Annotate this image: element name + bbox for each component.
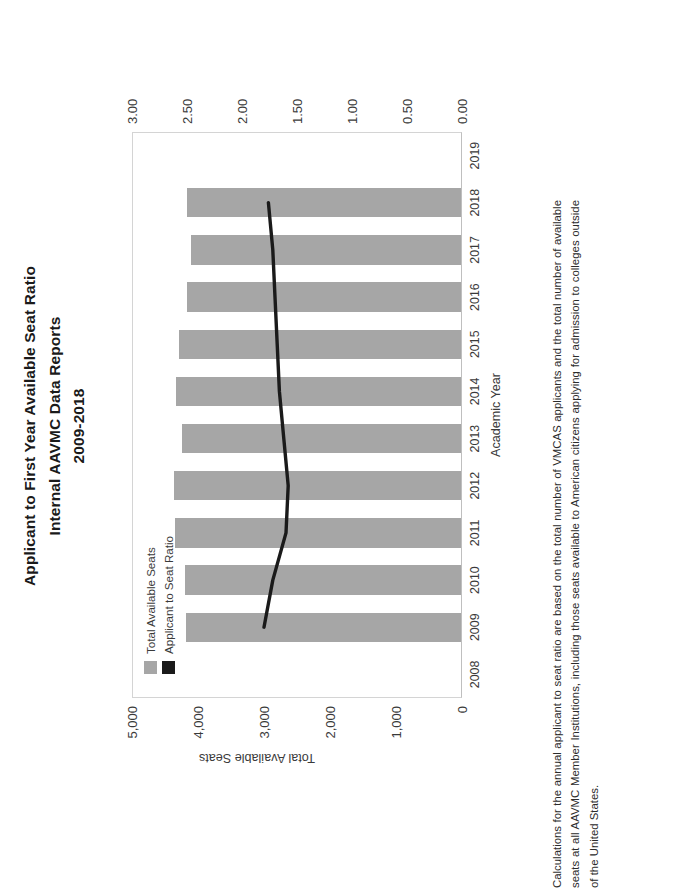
chart-caption: Calculations for the annual applicant to…: [548, 194, 660, 892]
ratio-axis: 3.00 2.50 2.00 1.50 1.00 0.50 0.00 Appli…: [110, 90, 462, 132]
combo-chart: 5,000 4,000 3,000 2,000 1,000 0 Total Av…: [110, 90, 530, 790]
year-tick-2014: 2014: [468, 378, 482, 406]
legend-item-seats: Total Available Seats: [144, 536, 157, 674]
seats-tick-5000: 5,000: [125, 706, 140, 739]
year-tick-2008: 2008: [468, 661, 482, 689]
year-tick-2012: 2012: [468, 472, 482, 500]
legend-item-ratio: Applicant to Seat Ratio: [162, 536, 175, 674]
year-tick-2019: 2019: [468, 142, 482, 170]
ratio-tick-300: 3.00: [125, 99, 140, 124]
seats-tick-1000: 1,000: [389, 706, 404, 739]
legend-swatch-ratio: [162, 661, 175, 674]
year-tick-2018: 2018: [468, 189, 482, 217]
ratio-tick-200: 2.00: [235, 99, 250, 124]
ratio-tick-100: 1.00: [345, 99, 360, 124]
title-line-1: Applicant to First Year Available Seat R…: [20, 266, 40, 586]
seats-tick-2000: 2,000: [323, 706, 338, 739]
year-tick-2017: 2017: [468, 236, 482, 264]
seats-tick-3000: 3,000: [257, 706, 272, 739]
legend-swatch-seats: [144, 661, 157, 674]
year-tick-2009: 2009: [468, 613, 482, 641]
ratio-line-series: [132, 132, 462, 698]
year-tick-2016: 2016: [468, 283, 482, 311]
legend-label-seats: Total Available Seats: [144, 547, 157, 654]
ratio-tick-050: 0.50: [400, 99, 415, 124]
page-title: Applicant to First Year Available Seat R…: [7, 76, 103, 776]
seats-tick-0: 0: [455, 706, 470, 713]
ratio-tick-150: 1.50: [290, 99, 305, 124]
year-tick-2011: 2011: [468, 520, 482, 547]
seats-axis-title: Total Available Seats: [147, 751, 367, 765]
year-tick-2015: 2015: [468, 330, 482, 358]
year-tick-2010: 2010: [468, 566, 482, 594]
title-line-2: Internal AAVMC Data Reports: [45, 317, 65, 536]
ratio-tick-250: 2.50: [180, 99, 195, 124]
legend-label-ratio: Applicant to Seat Ratio: [162, 536, 175, 654]
ratio-tick-000: 0.00: [455, 99, 470, 124]
title-line-3: 2009-2018: [69, 388, 89, 463]
chart-legend: Total Available Seats Applicant to Seat …: [144, 536, 175, 674]
year-axis: 2008200920102011201220132014201520162017…: [463, 132, 507, 698]
year-tick-2013: 2013: [468, 425, 482, 453]
seats-tick-4000: 4,000: [191, 706, 206, 739]
year-axis-title: Academic Year: [489, 132, 503, 698]
seats-axis: 5,000 4,000 3,000 2,000 1,000 0 Total Av…: [110, 698, 462, 790]
